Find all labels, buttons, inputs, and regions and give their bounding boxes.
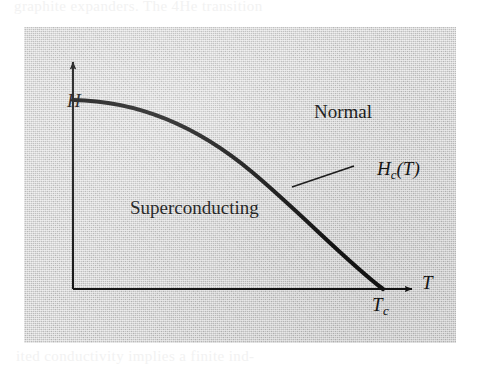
page-ghost-text-bottom: ited conductivity implies a finite ind- — [16, 348, 254, 365]
region-label-superconducting: Superconducting — [130, 198, 259, 217]
x-axis-label: T — [422, 273, 433, 292]
critical-field-curve — [73, 100, 383, 289]
critical-temperature-subscript: c — [383, 303, 389, 318]
callout-leader-line — [292, 166, 354, 187]
plot-drawing — [24, 27, 456, 343]
figure-root: graphite expanders. The 4He transition H… — [0, 0, 481, 367]
critical-temperature-symbol: T — [372, 294, 383, 315]
y-axis-label: H — [67, 91, 81, 110]
critical-temperature-label: Tc — [372, 295, 389, 317]
critical-field-callout: Hc(T) — [377, 159, 420, 181]
critical-field-argument: (T) — [397, 158, 420, 179]
page-ghost-text-top: graphite expanders. The 4He transition — [14, 0, 263, 15]
plot-panel: H T Tc Normal Superconducting Hc(T) — [24, 27, 456, 343]
critical-field-symbol: H — [377, 158, 391, 179]
region-label-normal: Normal — [314, 102, 372, 121]
